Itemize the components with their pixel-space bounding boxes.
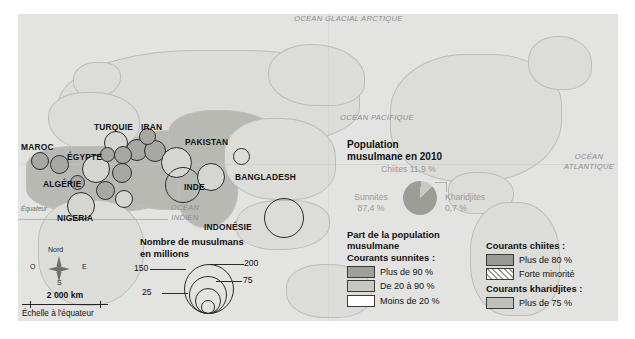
bubble-irak — [114, 146, 132, 164]
compass-rose: Nord O E S — [30, 246, 102, 292]
legend-title-line1: Part de la population — [347, 229, 487, 240]
legend-item: Moins de 20 % — [347, 295, 487, 307]
legend-swatch-shia-over-80 — [486, 254, 514, 266]
bubble-maroc — [31, 152, 49, 170]
scale-caption: Échelle à l'équateur — [22, 309, 132, 318]
ocean-label-indien: OCÉAN INDIEN — [163, 203, 207, 223]
pie-label-kharidjites-name: Kharidjites — [445, 192, 485, 202]
bubble-arabie — [112, 163, 132, 183]
equator-label: Équateur — [21, 205, 47, 212]
landmass-greenland — [528, 36, 592, 90]
pie-chart — [403, 181, 437, 215]
pie-label-sunnites-name: Sunnites — [354, 192, 387, 202]
bubble-chine — [233, 148, 250, 165]
legend-item: Plus de 80 % — [486, 254, 619, 266]
legend-column-shia-kharijite: Courants chiites : Plus de 80 % Forte mi… — [486, 240, 619, 309]
legend-label-kharijite-over-75: Plus de 75 % — [519, 298, 572, 308]
bubble-size-legend: Nombre de musulmans en millions 200 150 … — [140, 236, 300, 334]
pie-label-chiites-name: Chiites — [381, 164, 407, 174]
legend-item: Plus de 75 % — [486, 297, 619, 309]
scale-distance-label: 2 000 km — [22, 290, 108, 300]
population-title-line2: musulmane en 2010 — [347, 151, 507, 163]
compass-north-label: Nord — [48, 246, 63, 253]
country-label-algerie: ALGÉRIE — [43, 179, 82, 189]
bubble-legend-title-line2: en millions — [140, 248, 300, 260]
scale-bar: 2 000 km Échelle à l'équateur — [22, 290, 132, 318]
compass-west-label: O — [30, 263, 35, 270]
country-label-inde: INDE — [184, 182, 205, 192]
legend-title-line2: musulmane — [347, 240, 487, 251]
legend-item: Plus de 90 % — [347, 266, 487, 278]
legend-kharijite-heading: Courants kharidjites : — [486, 283, 619, 294]
compass-needle-icon — [48, 256, 70, 282]
legend-sunni-heading: Courants sunnites : — [347, 252, 487, 263]
bubble-legend-value-200: 200 — [244, 258, 258, 268]
legend-label-shia-strong-minority: Forte minorité — [519, 269, 575, 279]
pie-label-sunnites: Sunnites 87,4 % — [347, 192, 395, 214]
pie-leader-line-vertical — [446, 182, 447, 192]
legend-label-sunni-over-90: Plus de 90 % — [380, 267, 433, 277]
country-label-iran: IRAN — [141, 122, 162, 132]
ocean-label-pacifique: OCÉAN PACIFIQUE — [340, 113, 414, 122]
legend-column-sunni: Part de la population musulmane Courants… — [347, 229, 487, 307]
pie-label-chiites-value: 11,9 % — [410, 164, 436, 174]
ocean-label-glacial-arctique: OCÉAN GLACIAL ARCTIQUE — [294, 14, 403, 23]
legend-swatch-shia-strong-minority — [486, 268, 514, 280]
pie-label-kharidjites-value: 0,7 % — [445, 203, 467, 213]
bubble-legend-value-150: 150 — [134, 263, 148, 273]
bubble-legend-leader — [162, 293, 188, 294]
legend-swatch-sunni-under-20 — [347, 295, 375, 307]
bubble-syrie — [100, 147, 115, 162]
legend-swatch-sunni-over-90 — [347, 266, 375, 278]
country-label-turquie: TURQUIE — [94, 122, 133, 132]
pie-label-chiites: Chiites 11,9 % — [381, 164, 436, 174]
ocean-label-atlantique: OCÉAN ATLANTIQUE — [560, 152, 618, 172]
bubble-ethiopie — [115, 190, 133, 208]
bubble-legend-leader — [150, 269, 186, 270]
country-label-indonesie: INDONÉSIE — [204, 222, 252, 232]
legend-label-sunni-under-20: Moins de 20 % — [380, 296, 440, 306]
population-title-line1: Population — [347, 139, 507, 151]
bubble-legend-leader — [210, 264, 244, 265]
bubble-legend-circle-25 — [201, 300, 215, 314]
compass-east-label: E — [82, 263, 87, 270]
bubble-indonesie — [264, 198, 304, 238]
map-figure: OCÉAN GLACIAL ARCTIQUE OCÉAN PACIFIQUE O… — [0, 0, 635, 339]
legend-swatch-kharijite-over-75 — [486, 297, 514, 309]
legend-item: Forte minorité — [486, 268, 619, 280]
graticule-line — [328, 14, 329, 321]
country-label-egypte: ÉGYPTE — [67, 152, 102, 162]
pie-label-kharidjites: Kharidjites 0,7 % — [445, 192, 485, 214]
country-label-bangladesh: BANGLADESH — [235, 172, 296, 182]
legend-label-sunni-20-90: De 20 à 90 % — [380, 281, 435, 291]
landmass-siberia-east — [268, 44, 365, 106]
bubble-legend-value-75: 75 — [243, 275, 253, 285]
country-label-pakistan: PAKISTAN — [185, 137, 228, 147]
bubble-legend-nested-circles — [184, 264, 242, 322]
population-pie-block: Population musulmane en 2010 Chiites 11,… — [347, 139, 507, 226]
pie-label-sunnites-value: 87,4 % — [358, 203, 385, 213]
country-label-maroc: MAROC — [21, 142, 54, 152]
legend-shia-heading: Courants chiites : — [486, 240, 619, 251]
legend-swatch-sunni-20-90 — [347, 280, 375, 292]
bubble-legend-title-line1: Nombre de musulmans — [140, 236, 300, 248]
bubble-legend-leader — [216, 281, 242, 282]
scale-bar-graphic — [22, 301, 108, 308]
country-label-nigeria: NIGERIA — [57, 213, 93, 223]
bubble-legend-value-25: 25 — [142, 287, 152, 297]
legend-item: De 20 à 90 % — [347, 280, 487, 292]
pie-chart-wrapper: Chiites 11,9 % Sunnites 87,4 % Kharidjit… — [347, 164, 507, 226]
bubble-soudan — [96, 181, 115, 200]
legend-label-shia-over-80: Plus de 80 % — [519, 255, 572, 265]
